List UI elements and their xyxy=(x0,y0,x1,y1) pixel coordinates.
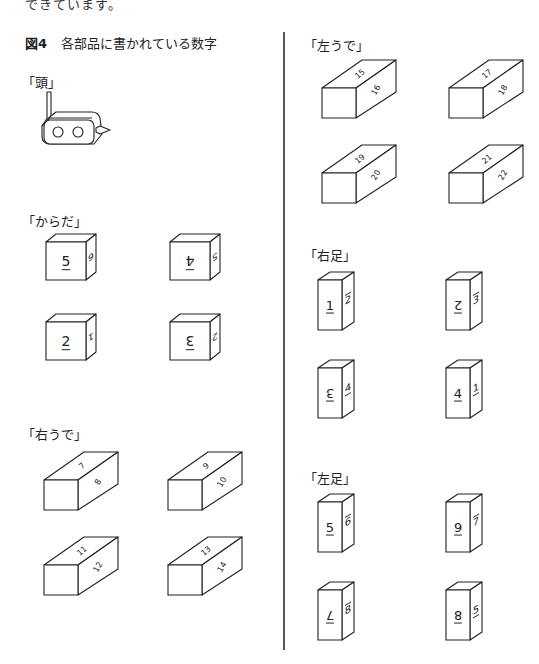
right-arm-block-3: 1314 xyxy=(164,535,246,597)
left-leg-block-2: 78 xyxy=(314,580,358,644)
arm-end-face xyxy=(168,565,202,595)
section-label-right-leg: 「右足」 xyxy=(304,245,356,264)
body-block-0: 56 xyxy=(36,232,98,288)
cube-front-number: 4 xyxy=(185,253,194,269)
left-arm-block-2: 1920 xyxy=(318,143,400,205)
leg-front-number: 4 xyxy=(454,386,462,401)
arm-end-face xyxy=(449,88,483,118)
leg-front-number: 2 xyxy=(454,298,462,313)
leg-front-number: 5 xyxy=(326,520,334,535)
right-leg-block-2: 34 xyxy=(314,358,358,422)
figure-caption: 各部品に書かれている数字 xyxy=(61,36,217,51)
arm-end-face xyxy=(449,173,483,203)
body-block-1: 45 xyxy=(160,232,222,288)
section-label-right-arm: 「右うで」 xyxy=(22,424,87,443)
arm-end-face xyxy=(322,88,356,118)
left-leg-block-0: 56 xyxy=(314,492,358,556)
arm-end-face xyxy=(168,480,202,510)
body-block-3: 32 xyxy=(160,312,222,368)
head-eye-left xyxy=(53,127,63,137)
right-leg-block-3: 41 xyxy=(442,358,486,422)
left-leg-block-1: 67 xyxy=(442,492,486,556)
right-leg-block-1: 23 xyxy=(442,270,486,334)
left-arm-block-1: 1718 xyxy=(445,58,527,120)
figure-title: 図4各部品に書かれている数字 xyxy=(25,33,217,52)
section-label-left-arm: 「左うで」 xyxy=(304,35,369,54)
head-illustration xyxy=(30,92,110,152)
right-arm-block-0: 78 xyxy=(40,450,122,512)
cube-front-number: 5 xyxy=(62,253,71,269)
cube-front-number: 3 xyxy=(186,333,195,349)
arm-end-face xyxy=(322,173,356,203)
head-eye-right xyxy=(73,127,83,137)
left-arm-block-0: 1516 xyxy=(318,58,400,120)
leg-front-number: 8 xyxy=(454,608,462,623)
leg-front-number: 1 xyxy=(326,298,334,313)
leg-front-number: 3 xyxy=(326,386,334,401)
cube-front-number: 2 xyxy=(62,333,71,349)
left-arm-block-3: 2122 xyxy=(445,143,527,205)
body-block-2: 21 xyxy=(36,312,98,368)
right-arm-block-2: 1112 xyxy=(40,535,122,597)
left-leg-block-3: 85 xyxy=(442,580,486,644)
right-arm-block-1: 910 xyxy=(164,450,246,512)
head-front-face xyxy=(44,120,94,144)
leg-front-number: 7 xyxy=(326,608,334,623)
section-label-head: 「頭」 xyxy=(22,72,61,91)
figure-number: 図4 xyxy=(25,36,47,51)
section-label-left-leg: 「左足」 xyxy=(304,468,356,487)
column-divider xyxy=(283,32,285,650)
previous-text-fragment: できています。 xyxy=(25,0,122,13)
head-nose xyxy=(96,126,110,134)
section-label-body: 「からだ」 xyxy=(22,211,87,230)
right-leg-block-0: 12 xyxy=(314,270,358,334)
leg-front-number: 6 xyxy=(454,520,462,535)
arm-end-face xyxy=(44,480,78,510)
arm-end-face xyxy=(44,565,78,595)
